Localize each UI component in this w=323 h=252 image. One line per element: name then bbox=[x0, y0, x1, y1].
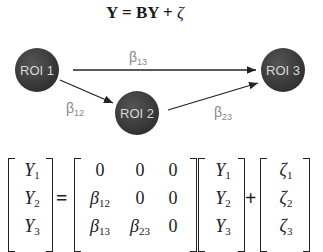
node-roi2-label: ROI 2 bbox=[120, 106, 154, 121]
rhs-bracket-right bbox=[238, 158, 245, 252]
plus-sign: + bbox=[245, 187, 256, 210]
rhs-y2: Y2 bbox=[203, 188, 243, 209]
matrix-cell-1-3: 0 bbox=[153, 160, 193, 181]
rhs-y3: Y3 bbox=[203, 216, 243, 237]
matrix-cell-2-1: β12 bbox=[80, 188, 120, 209]
error-zeta2: ζ2 bbox=[266, 188, 306, 209]
error-zeta3: ζ3 bbox=[266, 216, 306, 237]
matrix-equation: Y1 Y2 Y3 = 0 0 0 β12 0 0 β13 β23 0 Y1 Y2… bbox=[0, 150, 323, 250]
equals-sign: = bbox=[56, 187, 67, 210]
lhs-bracket-right bbox=[46, 158, 53, 252]
error-bracket-right bbox=[303, 158, 310, 252]
matrix-cell-3-1: β13 bbox=[80, 216, 120, 237]
matrix-cell-2-3: 0 bbox=[153, 188, 193, 209]
matrix-cell-3-3: 0 bbox=[153, 216, 193, 237]
edge-label-beta12: β12 bbox=[66, 100, 84, 118]
rhs-y1: Y1 bbox=[203, 160, 243, 181]
node-roi3-label: ROI 3 bbox=[266, 63, 300, 78]
node-roi3: ROI 3 bbox=[261, 48, 305, 92]
edge-roi2-roi3 bbox=[168, 83, 258, 110]
edge-label-beta13: β13 bbox=[129, 49, 147, 67]
node-roi1: ROI 1 bbox=[15, 48, 59, 92]
node-roi2: ROI 2 bbox=[115, 91, 159, 135]
error-zeta1: ζ1 bbox=[266, 160, 306, 181]
edge-label-beta23: β23 bbox=[214, 104, 232, 122]
node-roi1-label: ROI 1 bbox=[20, 63, 54, 78]
matrix-cell-1-1: 0 bbox=[80, 160, 120, 181]
matrix-bracket-right bbox=[190, 158, 197, 252]
path-diagram: β13 β12 β23 ROI 1 ROI 2 ROI 3 bbox=[0, 0, 323, 150]
